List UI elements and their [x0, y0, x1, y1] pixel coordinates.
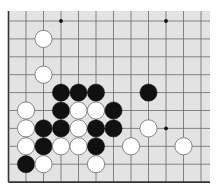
star-point-icon: [164, 126, 168, 130]
star-point-icon: [59, 19, 63, 23]
black-stone[interactable]: [52, 102, 69, 119]
white-stone[interactable]: [87, 156, 104, 173]
white-stone[interactable]: [35, 30, 52, 47]
black-stone[interactable]: [52, 120, 69, 137]
white-stone[interactable]: [52, 138, 69, 155]
black-stone[interactable]: [52, 84, 69, 101]
white-stone[interactable]: [17, 138, 34, 155]
black-stone[interactable]: [35, 120, 52, 137]
white-stone[interactable]: [87, 102, 104, 119]
white-stone[interactable]: [70, 120, 87, 137]
black-stone[interactable]: [35, 138, 52, 155]
white-stone[interactable]: [35, 156, 52, 173]
white-stone[interactable]: [140, 120, 157, 137]
black-stone[interactable]: [17, 156, 34, 173]
white-stone[interactable]: [35, 66, 52, 83]
white-stone[interactable]: [17, 120, 34, 137]
black-stone[interactable]: [140, 84, 157, 101]
black-stone[interactable]: [87, 120, 104, 137]
white-stone[interactable]: [122, 138, 139, 155]
black-stone[interactable]: [87, 138, 104, 155]
white-stone[interactable]: [70, 138, 87, 155]
go-board[interactable]: [0, 0, 219, 190]
star-point-icon: [164, 19, 168, 23]
black-stone[interactable]: [87, 84, 104, 101]
white-stone[interactable]: [175, 138, 192, 155]
black-stone[interactable]: [70, 84, 87, 101]
black-stone[interactable]: [105, 120, 122, 137]
white-stone[interactable]: [70, 102, 87, 119]
white-stone[interactable]: [17, 102, 34, 119]
black-stone[interactable]: [105, 102, 122, 119]
